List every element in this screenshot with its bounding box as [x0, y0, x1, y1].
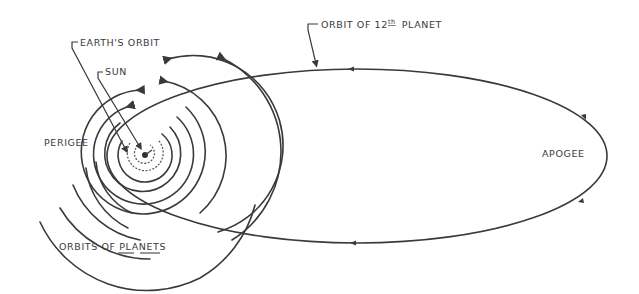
orbit-direction-arrow [578, 198, 584, 203]
twelfth-planet-label: ORBIT OF 12thPLANET [321, 18, 442, 30]
apogee-label: APOGEE [542, 148, 585, 159]
twelfth-planet-orbit [107, 67, 607, 246]
twelfth-planet-label-prefix: ORBIT OF 12 [321, 19, 388, 30]
orbit-direction-arrow [348, 67, 354, 72]
twelfth-planet-label-suffix: PLANET [402, 19, 442, 30]
orbit-ring-9 [222, 58, 281, 240]
solar-system-diagram: EARTH'S ORBIT SUN PERIGEE APOGEE ORBIT O… [0, 0, 639, 294]
orbit-lower-arc-2 [86, 168, 128, 228]
orbit-direction-arrow [350, 241, 356, 246]
orbits-of-planets-label: ORBITS OF PLANETS [59, 241, 166, 252]
twelfth-planet-label-sup: th [388, 18, 396, 26]
sun-label: SUN [105, 66, 127, 77]
sun-callout: SUN [98, 66, 140, 147]
sun [142, 150, 152, 158]
outer-planet-orbits [40, 55, 283, 290]
orbit-ring-6 [81, 90, 205, 214]
twelfth-planet-callout: ORBIT OF 12thPLANET [308, 18, 442, 64]
inner-planet-orbits [118, 134, 172, 182]
earths-orbit-label: EARTH'S ORBIT [80, 37, 160, 48]
orbit-ring-7 [164, 81, 226, 213]
orbits-of-planets-callout: ORBITS OF PLANETS [59, 241, 166, 253]
perigee-label: PERIGEE [44, 137, 89, 148]
orbit-ring-3 [118, 134, 172, 182]
